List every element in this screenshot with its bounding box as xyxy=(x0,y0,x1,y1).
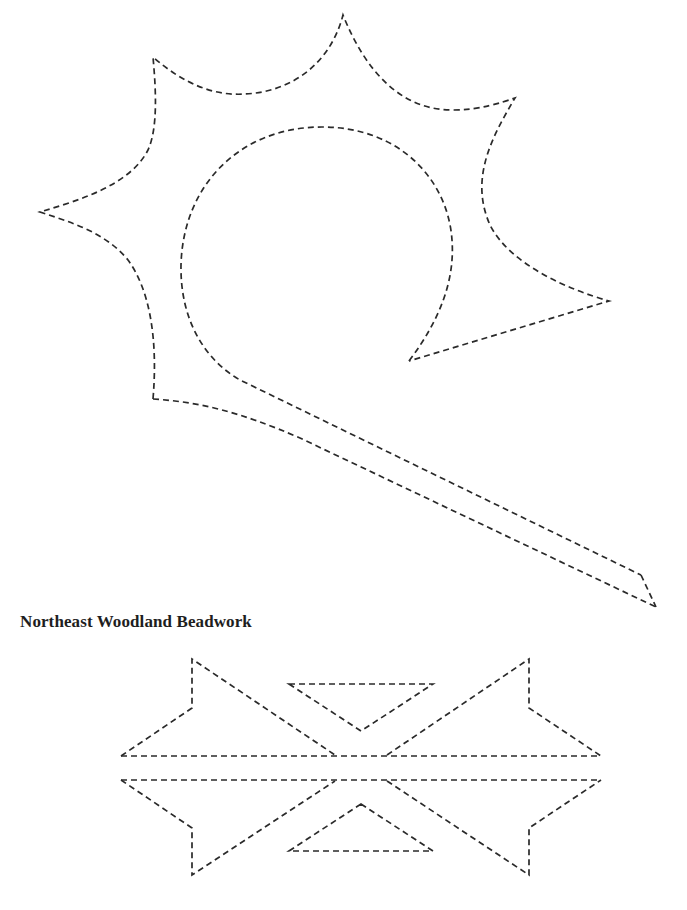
lower-right-star xyxy=(387,780,601,875)
stem-tip-outline xyxy=(641,575,656,607)
pattern-canvas xyxy=(0,0,687,910)
upper-inner-triangle xyxy=(289,684,433,731)
upper-left-star xyxy=(121,659,335,756)
lower-inner-triangle xyxy=(289,804,433,851)
bottom-beadwork-band xyxy=(121,659,601,875)
inner-loop-outline xyxy=(181,127,641,575)
outer-spiked-outline xyxy=(40,15,609,399)
top-floral-template xyxy=(40,15,656,607)
figure-caption: Northeast Woodland Beadwork xyxy=(20,612,252,632)
upper-right-star xyxy=(387,659,601,756)
lower-left-star xyxy=(121,780,335,875)
lower-stem-outline xyxy=(153,399,656,607)
